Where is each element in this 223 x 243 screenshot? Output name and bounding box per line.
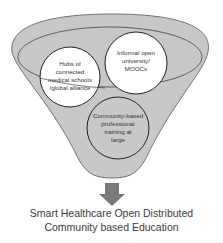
svg-text:Community-based: Community-based — [93, 112, 144, 119]
circle-hubs: Hubs of connected medical schools /globa… — [40, 47, 100, 107]
svg-text:Hubs of: Hubs of — [59, 60, 81, 67]
circle-community: Community-based professional training at… — [87, 97, 149, 159]
svg-text:connected: connected — [56, 68, 85, 75]
svg-text:training at: training at — [104, 128, 131, 135]
svg-text:large: large — [111, 136, 125, 143]
output-caption-line2: Community based Education — [0, 220, 223, 234]
circle-informal: Informal open university/ MOOCs — [105, 32, 167, 94]
down-arrow-icon — [99, 183, 125, 206]
svg-text:university/: university/ — [122, 57, 150, 64]
svg-text:Informal open: Informal open — [117, 49, 155, 56]
svg-text:MOOCs: MOOCs — [125, 65, 147, 72]
svg-text:/global alliance: /global alliance — [50, 84, 91, 91]
output-caption-line1: Smart Healthcare Open Distributed — [0, 206, 223, 220]
svg-text:medical schools: medical schools — [48, 76, 92, 83]
svg-text:professional: professional — [101, 120, 134, 127]
